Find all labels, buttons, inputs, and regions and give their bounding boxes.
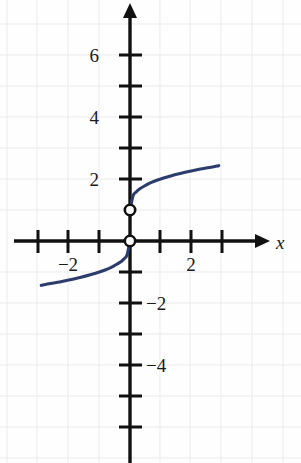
x-tick-label-2: 2 bbox=[186, 255, 196, 274]
y-tick-label-6: 6 bbox=[90, 46, 100, 65]
curve-branch-positive bbox=[130, 166, 219, 210]
y-tick-label-2: 2 bbox=[90, 170, 100, 189]
coordinate-plane bbox=[0, 0, 301, 463]
x-axis-arrowhead bbox=[255, 234, 270, 248]
y-axis bbox=[123, 3, 137, 463]
y-tick-label-4: 4 bbox=[90, 108, 100, 127]
background-grid bbox=[0, 0, 301, 463]
graph-figure: 6 4 2 −2 −4 −2 2 x bbox=[0, 0, 301, 463]
y-axis-arrowhead bbox=[123, 3, 137, 18]
y-tick-label-minus4: −4 bbox=[146, 356, 166, 375]
x-tick-label-minus2: −2 bbox=[58, 255, 78, 274]
open-point-zero-one bbox=[125, 205, 135, 215]
x-axis bbox=[14, 234, 270, 248]
curve-branch-negative bbox=[41, 241, 130, 285]
y-tick-label-minus2: −2 bbox=[146, 294, 166, 313]
open-point-origin bbox=[125, 236, 135, 246]
x-axis-label: x bbox=[276, 233, 284, 252]
